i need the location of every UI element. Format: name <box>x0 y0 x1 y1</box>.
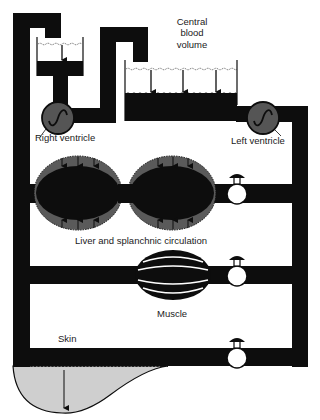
skin-pool <box>13 366 168 413</box>
left-ventricle-pump <box>247 102 281 136</box>
skin-label: Skin <box>58 333 76 344</box>
circulation-diagram: Central blood volume Right ventricle Lef… <box>0 0 320 420</box>
liver-splanchnic-circulation <box>28 156 294 230</box>
muscle-circulation <box>28 250 294 300</box>
right-atrial-reservoir <box>37 37 83 76</box>
skin-vessel <box>28 348 294 366</box>
liver-splanchnic-label: Liver and splanchnic circulation <box>75 235 207 246</box>
muscle-label: Muscle <box>157 308 187 319</box>
label-line: volume <box>168 39 216 50</box>
label-line: blood <box>168 27 216 38</box>
left-vein <box>13 13 30 367</box>
right-ventricle-label: Right ventricle <box>35 132 95 143</box>
valve-muscle-icon <box>227 256 247 286</box>
label-line: Central <box>168 16 216 27</box>
central-blood-volume-label: Central blood volume <box>168 16 216 50</box>
left-ventricle-label: Left ventricle <box>231 135 285 146</box>
central-blood-volume-reservoir <box>125 60 237 121</box>
diagram-canvas <box>0 0 320 420</box>
right-artery <box>292 106 308 367</box>
valve-liver-icon <box>227 174 247 204</box>
valve-skin-icon <box>227 338 247 368</box>
